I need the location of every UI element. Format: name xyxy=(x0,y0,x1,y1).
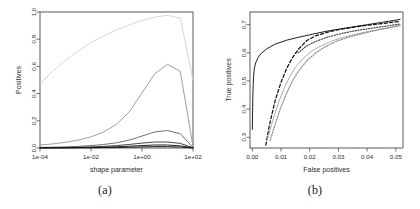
y-tick-label: 0.6 xyxy=(30,62,37,71)
x-axis-title: False positives xyxy=(303,166,350,174)
y-axis-title: Positives xyxy=(15,65,22,94)
x-tick-label: 1e+00 xyxy=(133,153,151,160)
figure-container: 1e-041e-021e+001e+020.00.20.40.60.81.0sh… xyxy=(0,0,420,209)
x-tick-label: 0.03 xyxy=(332,153,345,160)
y-tick-label: 0.6 xyxy=(240,48,247,57)
y-tick-label: 1.0 xyxy=(30,7,37,16)
panel-a-caption: (a) xyxy=(0,183,210,198)
y-tick-label: 0.2 xyxy=(30,116,37,125)
chart-b-canvas: 0.000.010.020.030.040.050.30.40.50.60.7F… xyxy=(210,0,420,209)
x-tick-label: 1e-04 xyxy=(32,153,48,160)
series-curve-2 xyxy=(40,64,193,146)
chart-panel-b: 0.000.010.020.030.040.050.30.40.50.60.7F… xyxy=(210,0,420,209)
y-tick-label: 0.0 xyxy=(30,143,37,152)
y-tick-label: 0.7 xyxy=(240,20,247,29)
y-tick-label: 0.8 xyxy=(30,34,37,43)
y-tick-label: 0.5 xyxy=(240,76,247,85)
chart-panel-a: 1e-041e-021e+001e+020.00.20.40.60.81.0sh… xyxy=(0,0,210,209)
y-tick-label: 0.4 xyxy=(30,89,37,98)
panel-b-caption: (b) xyxy=(210,183,420,198)
y-tick-label: 0.3 xyxy=(240,132,247,141)
x-tick-label: 0.01 xyxy=(275,153,288,160)
x-tick-label: 1e+02 xyxy=(184,153,202,160)
series-roc-solid-black xyxy=(252,19,400,129)
x-tick-label: 0.00 xyxy=(246,153,259,160)
x-tick-label: 0.05 xyxy=(390,153,403,160)
series-roc-dashed-black xyxy=(266,21,400,145)
x-tick-label: 1e-02 xyxy=(83,153,99,160)
y-tick-label: 0.4 xyxy=(240,104,247,113)
plot-box xyxy=(40,12,193,148)
y-axis-title: True positives xyxy=(225,58,233,102)
x-axis-title: shape parameter xyxy=(90,166,144,174)
x-tick-label: 0.02 xyxy=(304,153,317,160)
series-roc-dotted-gray xyxy=(270,25,400,140)
x-tick-label: 0.04 xyxy=(361,153,374,160)
series-curve-1 xyxy=(40,15,193,84)
chart-a-canvas: 1e-041e-021e+001e+020.00.20.40.60.81.0sh… xyxy=(0,0,210,209)
